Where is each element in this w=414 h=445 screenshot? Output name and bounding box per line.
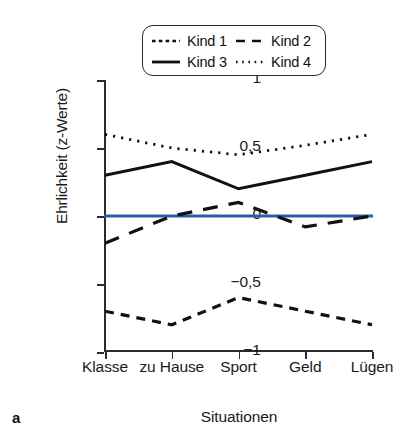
- legend-entry-kind-1: Kind 1: [151, 33, 235, 49]
- legend-entry-kind-4: Kind 4: [235, 54, 319, 70]
- x-axis-title: Situationen: [104, 408, 374, 426]
- legend-row: Kind 1 Kind 2: [151, 30, 319, 51]
- y-tick-mark: [97, 80, 104, 82]
- legend-entry-kind-3: Kind 3: [151, 54, 235, 70]
- legend-row: Kind 3 Kind 4: [151, 51, 319, 72]
- y-axis-title: Ehrlichkeit (z-Werte): [53, 26, 71, 286]
- legend-line-short-dash-icon: [151, 36, 181, 46]
- series-line-kind-4: [105, 134, 372, 154]
- y-tick-mark: [97, 216, 104, 218]
- legend-line-solid-icon: [151, 57, 181, 67]
- series-line-kind-3: [105, 162, 372, 189]
- legend-line-dotted-icon: [235, 57, 265, 67]
- legend-label-kind-3: Kind 3: [187, 54, 227, 70]
- figure-panel-a: Ehrlichkeit (z-Werte) Situationen a −1−0…: [0, 0, 414, 445]
- legend-entry-kind-2: Kind 2: [235, 33, 319, 49]
- legend-label-kind-2: Kind 2: [271, 33, 311, 49]
- y-tick-mark: [97, 148, 104, 150]
- y-tick-mark: [97, 284, 104, 286]
- x-tick-label: Lügen: [324, 358, 414, 376]
- series-lines: [104, 80, 373, 352]
- series-line-kind-1: [105, 298, 372, 325]
- legend-line-long-dash-icon: [235, 36, 265, 46]
- legend-label-kind-1: Kind 1: [187, 33, 227, 49]
- legend: Kind 1 Kind 2 Kind 3: [142, 25, 326, 76]
- legend-label-kind-4: Kind 4: [271, 54, 311, 70]
- series-line-kind-2: [105, 202, 372, 243]
- panel-letter: a: [12, 409, 20, 426]
- plot-area: −1−0,500,51 Klassezu HauseSportGeldLügen: [104, 80, 373, 352]
- y-tick-mark: [97, 352, 104, 354]
